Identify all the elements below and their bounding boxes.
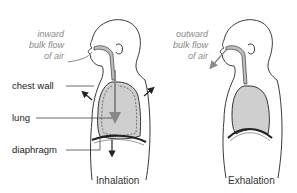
inhalation-lung xyxy=(98,82,141,139)
exhalation-caption: Exhalation xyxy=(228,176,275,186)
respiration-diagram: inward bulk flow of air outward bulk flo… xyxy=(0,0,297,193)
inhalation-airway xyxy=(94,46,115,80)
diaphragm-label: diaphragm xyxy=(12,145,57,155)
chest-wall-label: chest wall xyxy=(12,81,54,91)
inhalation-flow-label: inward bulk flow of air xyxy=(20,29,64,62)
lung-label: lung xyxy=(12,113,30,123)
exhalation-flow-label: outward bulk flow of air xyxy=(160,29,208,62)
inhalation-caption: Inhalation xyxy=(96,176,139,186)
exhalation-lung xyxy=(232,86,269,134)
head-outline xyxy=(224,20,277,80)
head-outline xyxy=(92,20,145,80)
